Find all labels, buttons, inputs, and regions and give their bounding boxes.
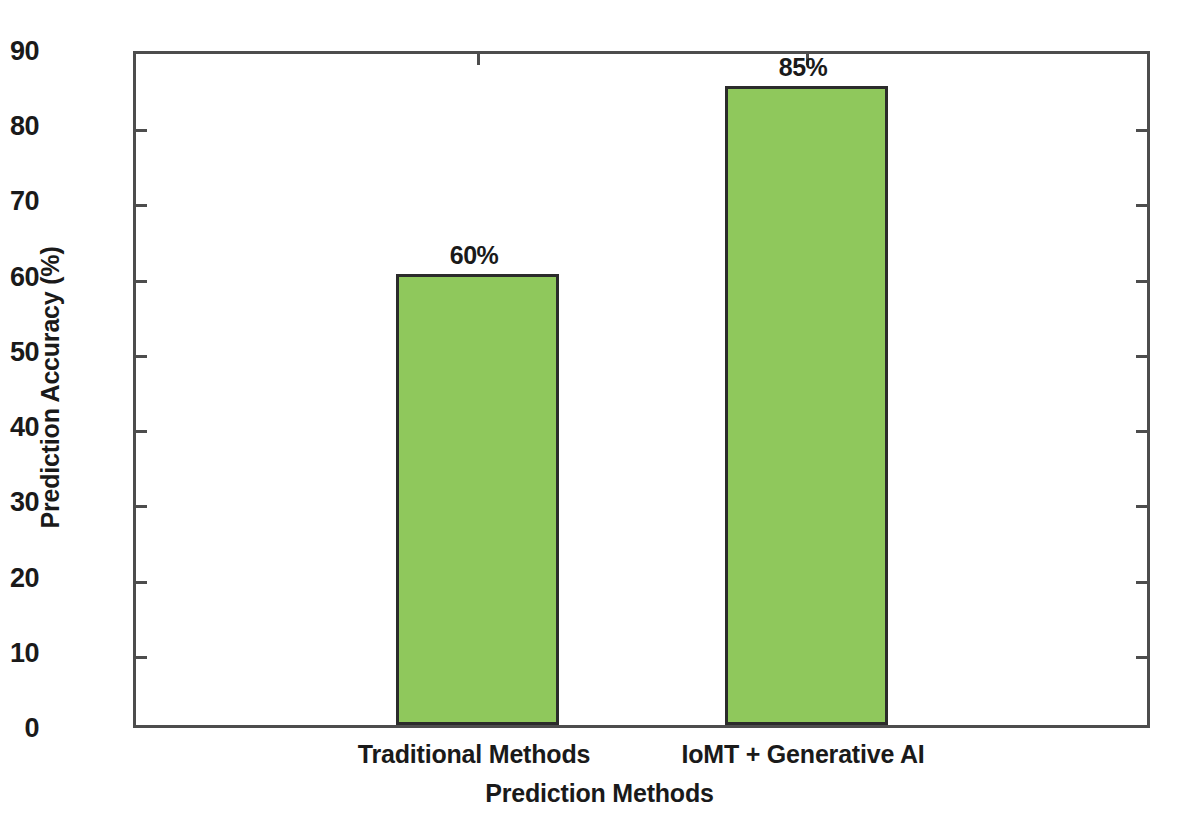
y-axis-tick (136, 129, 147, 132)
bar-chart-figure: Prediction Accuracy (%) 0102030405060708… (0, 0, 1199, 835)
y-axis-tick (1136, 656, 1147, 659)
x-axis-tick (477, 54, 480, 65)
y-axis-tick (1136, 355, 1147, 358)
y-axis-tick-label: 50 (0, 338, 39, 365)
y-axis-tick (1136, 129, 1147, 132)
y-axis-tick (1136, 204, 1147, 207)
y-axis-tick (136, 430, 147, 433)
y-axis-tick-label: 60 (0, 263, 39, 290)
y-axis-tick-label: 70 (0, 188, 39, 215)
plot-area (133, 51, 1150, 728)
y-axis-tick (136, 355, 147, 358)
bar (725, 86, 888, 725)
y-axis-tick (136, 505, 147, 508)
bar-data-label: 85% (779, 53, 828, 82)
x-axis-category-label: Traditional Methods (358, 740, 590, 769)
y-axis-tick (136, 204, 147, 207)
x-axis-category-label: IoMT + Generative AI (681, 740, 924, 769)
bar (396, 274, 559, 725)
y-axis-tick (136, 581, 147, 584)
y-axis-tick (136, 280, 147, 283)
y-axis-tick (136, 656, 147, 659)
y-axis-tick-label: 90 (0, 38, 39, 65)
y-axis-tick-label: 40 (0, 414, 39, 441)
x-axis-title: Prediction Methods (0, 779, 1199, 808)
y-axis-title: Prediction Accuracy (%) (36, 178, 65, 598)
y-axis-tick-label: 0 (0, 715, 39, 742)
y-axis-tick-label: 20 (0, 564, 39, 591)
y-axis-tick (1136, 430, 1147, 433)
y-axis-tick (1136, 280, 1147, 283)
bar-data-label: 60% (450, 241, 499, 270)
y-axis-tick (1136, 505, 1147, 508)
y-axis-tick (1136, 581, 1147, 584)
y-axis-tick-label: 30 (0, 489, 39, 516)
y-axis-tick-label: 10 (0, 639, 39, 666)
y-axis-tick-label: 80 (0, 113, 39, 140)
